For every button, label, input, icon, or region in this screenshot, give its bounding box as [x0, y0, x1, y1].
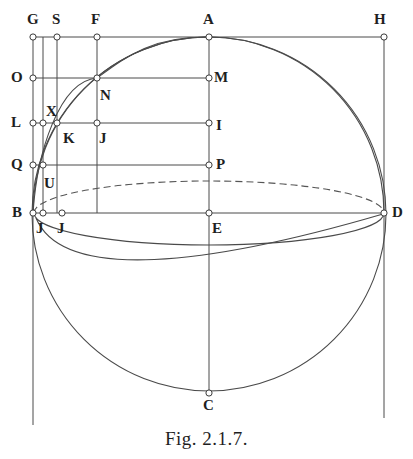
- vertex-marker-j2: [59, 210, 65, 216]
- vertex-marker-s: [54, 34, 60, 40]
- vertex-marker-u: [40, 162, 46, 168]
- figure-caption: Fig. 2.1.7.: [0, 428, 413, 450]
- vertex-marker-q: [30, 162, 36, 168]
- vertex-label-a: A: [203, 12, 214, 27]
- vertex-label-q: Q: [11, 157, 23, 172]
- vertex-marker-g: [30, 34, 36, 40]
- vertex-label-i: I: [216, 118, 222, 133]
- vertex-marker-l: [30, 120, 36, 126]
- vertex-marker-e: [206, 210, 212, 216]
- vertex-marker-c: [206, 390, 212, 396]
- vertex-marker-h: [381, 34, 387, 40]
- vertex-label-o: O: [11, 70, 23, 85]
- vertex-label-f: F: [91, 12, 100, 27]
- vertex-label-e: E: [212, 221, 222, 236]
- vertex-marker-lb: [40, 120, 46, 126]
- vertex-label-x: X: [46, 104, 57, 119]
- vertex-label-g: G: [27, 12, 39, 27]
- vertex-marker-a: [206, 34, 212, 40]
- vertex-marker-o: [30, 75, 36, 81]
- vertex-marker-p: [206, 162, 212, 168]
- vertex-marker-b: [30, 210, 36, 216]
- vertex-marker-f: [94, 34, 100, 40]
- vertex-label-b: B: [12, 205, 22, 220]
- vertex-marker-x: [54, 120, 60, 126]
- vertex-label-c: C: [203, 398, 214, 413]
- vertex-marker-jup: [94, 120, 100, 126]
- vertex-label-d: D: [392, 205, 403, 220]
- vertex-label-m: M: [214, 70, 228, 85]
- vertex-label-p: P: [216, 157, 225, 172]
- vertex-marker-j1: [40, 210, 46, 216]
- vertex-label-n: N: [100, 88, 111, 103]
- vertex-marker-d: [381, 210, 387, 216]
- vertical-construction-lines: [33, 37, 384, 425]
- figure-root: GSFAHOMNXLIKJQPUBDJJEC Fig. 2.1.7.: [0, 0, 413, 459]
- vertex-label-u: U: [44, 176, 55, 191]
- vertex-label-j-upper: J: [99, 131, 107, 146]
- vertex-label-l: L: [11, 115, 21, 130]
- vertex-marker-i: [206, 120, 212, 126]
- vertex-label-j-left: J: [36, 221, 44, 236]
- vertex-marker-n: [94, 75, 100, 81]
- vertex-label-s: S: [52, 12, 60, 27]
- vertex-label-h: H: [374, 12, 386, 27]
- vertex-label-j-mid: J: [57, 221, 65, 236]
- vertex-marker-m: [206, 75, 212, 81]
- vertex-label-k: K: [63, 131, 75, 146]
